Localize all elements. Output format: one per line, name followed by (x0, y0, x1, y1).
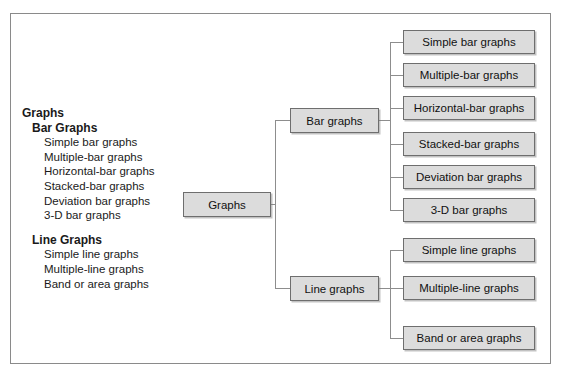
connector-line-trunk (390, 250, 391, 338)
outline-spacer (22, 223, 182, 233)
node-root-graphs[interactable]: Graphs (183, 192, 271, 217)
node-simple-line-graphs[interactable]: Simple line graphs (403, 238, 535, 262)
connector-bar-leaf (390, 108, 403, 109)
node-3d-bar-graphs[interactable]: 3-D bar graphs (403, 198, 535, 222)
node-label: Stacked-bar graphs (419, 138, 519, 150)
connector-bar-leaf (390, 42, 403, 43)
outline-line: Horizontal-bar graphs (44, 164, 182, 179)
connector-to-line-graphs (275, 288, 290, 289)
node-label: Horizontal-bar graphs (414, 102, 525, 114)
outline-line: Graphs (22, 106, 182, 121)
node-label: Deviation bar graphs (416, 171, 522, 183)
connector-line-stub (378, 288, 390, 289)
outline-line: Multiple-bar graphs (44, 150, 182, 165)
connector-line-leaf (390, 288, 403, 289)
node-label: Simple bar graphs (422, 36, 515, 48)
connector-bar-leaf (390, 177, 403, 178)
node-label: Simple line graphs (422, 244, 517, 256)
node-stacked-bar-graphs[interactable]: Stacked-bar graphs (403, 132, 535, 156)
node-bar-graphs[interactable]: Bar graphs (290, 108, 379, 133)
connector-bar-leaf (390, 210, 403, 211)
outline-line: Multiple-line graphs (44, 262, 182, 277)
connector-bar-leaf (390, 75, 403, 76)
node-label: 3-D bar graphs (431, 204, 508, 216)
node-label: Band or area graphs (417, 332, 522, 344)
node-label: Multiple-bar graphs (420, 69, 518, 81)
node-label: Multiple-line graphs (419, 282, 519, 294)
node-label: Graphs (208, 199, 246, 211)
outline-line: Simple line graphs (44, 247, 182, 262)
node-label: Bar graphs (306, 115, 362, 127)
node-multiple-bar-graphs[interactable]: Multiple-bar graphs (403, 63, 535, 87)
node-horizontal-bar-graphs[interactable]: Horizontal-bar graphs (403, 96, 535, 120)
connector-root-trunk (275, 120, 276, 288)
node-line-graphs[interactable]: Line graphs (290, 276, 379, 301)
outline-text-block: Graphs Bar Graphs Simple bar graphs Mult… (22, 106, 182, 291)
outline-line: Simple bar graphs (44, 135, 182, 150)
diagram-canvas: Graphs Bar Graphs Simple bar graphs Mult… (0, 0, 565, 376)
outline-line: 3-D bar graphs (44, 208, 182, 223)
node-band-or-area-graphs[interactable]: Band or area graphs (403, 326, 535, 350)
connector-bar-trunk (390, 42, 391, 210)
outline-line: Deviation bar graphs (44, 194, 182, 209)
outline-line: Line Graphs (32, 233, 182, 248)
connector-to-bar-graphs (275, 120, 290, 121)
connector-line-leaf (390, 250, 403, 251)
node-deviation-bar-graphs[interactable]: Deviation bar graphs (403, 165, 535, 189)
node-multiple-line-graphs[interactable]: Multiple-line graphs (403, 276, 535, 300)
node-label: Line graphs (304, 283, 364, 295)
outline-line: Stacked-bar graphs (44, 179, 182, 194)
node-simple-bar-graphs[interactable]: Simple bar graphs (403, 30, 535, 54)
outline-line: Band or area graphs (44, 277, 182, 292)
connector-bar-leaf (390, 144, 403, 145)
connector-bar-stub (378, 120, 390, 121)
connector-line-leaf (390, 338, 403, 339)
outline-line: Bar Graphs (32, 121, 182, 136)
